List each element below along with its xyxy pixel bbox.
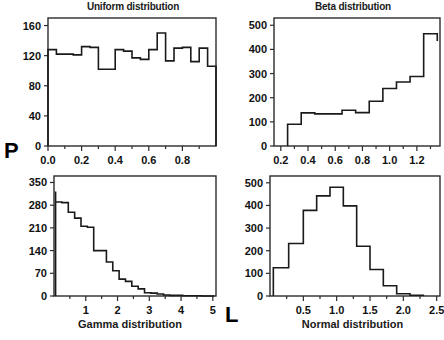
x-tick-label: 3 xyxy=(146,304,152,315)
y-tick-label: 0 xyxy=(41,290,47,302)
x-tick-label: 4 xyxy=(178,304,185,315)
plot-frame xyxy=(48,18,216,146)
plot-frame xyxy=(54,176,216,296)
y-tick-label: 0 xyxy=(257,290,263,302)
y-tick-label: 350 xyxy=(29,176,47,188)
x-tick-label: 0.4 xyxy=(108,154,124,165)
x-tick-label: 0.2 xyxy=(74,154,89,165)
y-tick-label: 70 xyxy=(35,267,47,279)
y-tick-label: 0 xyxy=(261,140,267,152)
x-tick-label: 0.6 xyxy=(328,154,343,165)
y-tick-label: 0 xyxy=(35,140,41,152)
y-tick-label: 210 xyxy=(29,222,47,234)
x-tick-label: 1 xyxy=(83,304,89,315)
plot-frame xyxy=(274,18,440,146)
y-tick-label: 280 xyxy=(29,199,47,211)
y-tick-label: 120 xyxy=(23,50,41,62)
x-tick-label: 0.0 xyxy=(40,154,55,165)
y-tick-label: 100 xyxy=(249,116,267,128)
y-tick-label: 500 xyxy=(245,177,263,189)
x-tick-label: 0.8 xyxy=(175,154,190,165)
figure-panel-grid: Uniform distribution Beta distribution P… xyxy=(0,0,444,340)
y-tick-label: 80 xyxy=(29,80,41,92)
x-tick-label: 1.5 xyxy=(362,304,377,315)
x-tick-label: 0.4 xyxy=(300,154,316,165)
y-tick-label: 200 xyxy=(249,92,267,104)
x-tick-label: 2.0 xyxy=(396,304,411,315)
y-tick-label: 160 xyxy=(23,20,41,32)
gamma-panel-xlabel: Gamma distribution xyxy=(40,318,220,330)
histogram-outline xyxy=(273,187,423,296)
y-tick-label: 200 xyxy=(245,245,263,257)
y-tick-label: 400 xyxy=(245,199,263,211)
y-tick-label: 400 xyxy=(249,43,267,55)
x-tick-label: 0.6 xyxy=(141,154,156,165)
x-tick-label: 0.2 xyxy=(273,154,288,165)
normal-panel-xlabel: Normal distribution xyxy=(265,318,440,330)
x-tick-label: 0.5 xyxy=(296,304,311,315)
x-tick-label: 1.2 xyxy=(409,154,424,165)
x-tick-label: 5 xyxy=(210,304,216,315)
x-tick-label: 1.0 xyxy=(382,154,397,165)
histogram-outline xyxy=(288,34,438,146)
y-tick-label: 500 xyxy=(249,19,267,31)
y-tick-label: 100 xyxy=(245,267,263,279)
y-tick-label: 300 xyxy=(249,68,267,80)
histogram-outline xyxy=(48,33,216,146)
uniform-distribution-chart: 040801201600.00.20.40.60.8 xyxy=(0,10,222,165)
x-tick-label: 2 xyxy=(114,304,120,315)
x-tick-label: 0.8 xyxy=(355,154,370,165)
x-tick-label: 1.0 xyxy=(329,304,344,315)
beta-distribution-chart: 01002003004005000.20.40.60.81.01.2 xyxy=(222,10,444,165)
y-tick-label: 140 xyxy=(29,245,47,257)
y-tick-label: 300 xyxy=(245,222,263,234)
gamma-distribution-chart: 07014021028035012345 xyxy=(0,170,222,315)
x-tick-label: 2.5 xyxy=(429,304,444,315)
plot-frame xyxy=(270,176,440,296)
normal-distribution-chart: 01002003004005000.51.01.52.02.5 xyxy=(222,170,444,315)
histogram-outline xyxy=(56,192,215,296)
y-tick-label: 40 xyxy=(29,110,41,122)
